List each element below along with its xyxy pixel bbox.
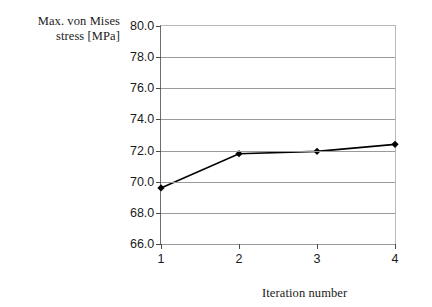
y-tick-mark [156, 213, 161, 214]
y-gridline [161, 151, 395, 152]
y-tick-label: 70.0 [130, 175, 154, 189]
y-tick-label: 72.0 [130, 144, 154, 158]
x-tick-label: 3 [314, 252, 321, 266]
y-tick-mark [156, 26, 161, 27]
y-gridline [161, 213, 395, 214]
y-tick-mark [156, 119, 161, 120]
x-tick-mark [161, 244, 162, 249]
y-gridline [161, 244, 395, 245]
x-tick-mark [395, 244, 396, 249]
x-tick-label: 1 [158, 252, 165, 266]
y-axis-title: Max. von Mises stress [MPa] [8, 14, 120, 44]
chart-figure: Max. von Mises stress [MPa] 80.078.076.0… [0, 0, 432, 307]
y-tick-mark [156, 182, 161, 183]
data-point-marker [391, 141, 398, 148]
y-tick-label: 66.0 [130, 237, 154, 251]
plot-area: 80.078.076.074.072.070.068.066.01234 [160, 25, 396, 245]
y-tick-mark [156, 151, 161, 152]
x-axis-title: Iteration number [262, 286, 347, 301]
y-tick-label: 74.0 [130, 112, 154, 126]
y-tick-label: 80.0 [130, 19, 154, 33]
x-tick-mark [317, 244, 318, 249]
series-line-chart [161, 26, 395, 244]
y-tick-label: 78.0 [130, 50, 154, 64]
y-tick-mark [156, 57, 161, 58]
y-gridline [161, 88, 395, 89]
data-point-marker [157, 184, 164, 191]
x-tick-label: 4 [392, 252, 399, 266]
y-gridline [161, 182, 395, 183]
x-tick-label: 2 [236, 252, 243, 266]
y-gridline [161, 119, 395, 120]
y-tick-label: 76.0 [130, 81, 154, 95]
y-gridline [161, 57, 395, 58]
y-tick-label: 68.0 [130, 206, 154, 220]
y-tick-mark [156, 88, 161, 89]
x-tick-mark [239, 244, 240, 249]
